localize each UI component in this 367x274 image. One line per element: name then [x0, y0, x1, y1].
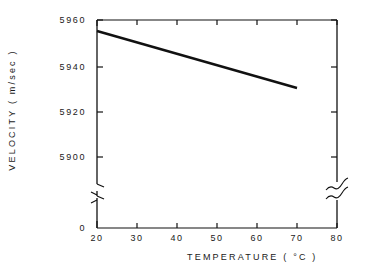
- left-axis-ticks: [97, 20, 103, 157]
- y-axis-title-wrapper: VELOCITY ( m/sec ): [0, 0, 24, 230]
- bottom-axis-ticks: [97, 221, 337, 228]
- right-axis-ticks: [331, 20, 337, 157]
- xtick-label-50: 50: [199, 233, 235, 243]
- ytick-label-5920: 5920: [34, 107, 86, 117]
- ytick-label-origin: 0: [60, 223, 86, 233]
- xtick-label-20: 20: [79, 233, 115, 243]
- xtick-label-80: 80: [319, 233, 355, 243]
- chart-figure: 5960 5940 5920 5900 0 20 30 40 50 60 70 …: [0, 0, 367, 274]
- xtick-label-40: 40: [159, 233, 195, 243]
- y-axis-title: VELOCITY ( m/sec ): [7, 30, 17, 190]
- xtick-label-60: 60: [239, 233, 275, 243]
- xtick-label-70: 70: [279, 233, 315, 243]
- xtick-label-30: 30: [119, 233, 155, 243]
- top-axis-ticks: [97, 20, 337, 26]
- ytick-label-5900: 5900: [34, 152, 86, 162]
- ytick-label-5940: 5940: [34, 62, 86, 72]
- ytick-label-5960: 5960: [34, 15, 86, 25]
- data-series-line: [97, 31, 297, 88]
- x-axis-title: TEMPERATURE ( °C ): [187, 252, 318, 262]
